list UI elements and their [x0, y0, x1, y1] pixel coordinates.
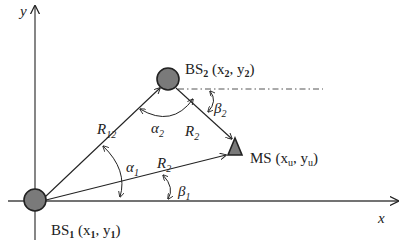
- bs1-label: BS1 (x1, y1): [51, 222, 121, 240]
- beta2-label: β2: [213, 100, 226, 119]
- alpha2-label: α2: [151, 120, 164, 139]
- beta2-arc: [208, 91, 214, 112]
- localization-diagram: y x BS1 (x1, y1) BS2 (x2, y2) MS (xu, yu…: [0, 0, 403, 245]
- alpha1-label: α1: [126, 159, 139, 178]
- ms-node: [228, 138, 242, 155]
- bs2-node: [157, 68, 179, 90]
- alpha1-arc: [103, 146, 122, 197]
- r2-top-label: R2: [184, 123, 199, 142]
- edge-r12: [45, 88, 160, 197]
- ms-label: MS (xu, yu): [250, 150, 318, 168]
- y-axis-label: y: [18, 3, 27, 19]
- beta1-label: β1: [177, 183, 190, 202]
- beta1-arc: [163, 175, 171, 199]
- r12-label: R12: [96, 121, 116, 140]
- alpha2-arc: [140, 99, 193, 117]
- bs1-node: [24, 189, 46, 211]
- x-axis-label: x: [377, 210, 385, 226]
- bs2-label: BS2 (x2, y2): [185, 61, 255, 79]
